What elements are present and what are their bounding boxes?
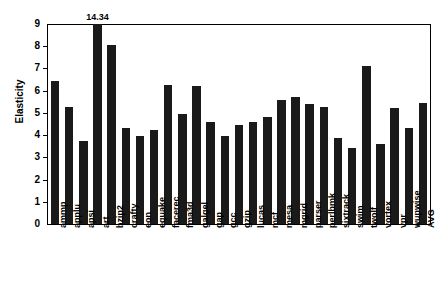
x-axis-label-swim: swim [356,205,365,228]
y-tick-label: 5 [24,108,40,118]
y-tick-label: 7 [24,63,40,73]
x-axis-label-perlbmk: perlbmk [328,193,337,228]
bar-twolf [362,66,370,224]
x-axis-label-bzip2: bzip2 [116,205,125,228]
x-axis-label-mcf: mcf [271,212,280,228]
x-axis-label-twolf: twolf [370,207,379,228]
x-axis-label-mesa: mesa [285,205,294,228]
y-tick-label: 0 [24,219,40,229]
x-axis-label-eon: eon [144,212,153,228]
elasticity-bar-chart: Elasticity 0123456789 14.34 ammpappluaps… [0,0,438,295]
y-tick-mark [43,202,47,203]
y-tick-mark [43,157,47,158]
x-axis-labels: ammpappluapsiartbzip2craftyeonequakeface… [48,226,430,295]
x-axis-label-wupwise: wupwise [413,190,422,228]
y-axis-title: Elasticity [14,47,25,157]
bars-container [48,24,430,224]
y-tick-mark [43,135,47,136]
y-tick-label: 2 [24,175,40,185]
peak-value-label: 14.34 [83,12,113,22]
x-axis-label-galgel: galgel [201,202,210,228]
x-axis-label-lucas: lucas [257,205,266,228]
x-axis-label-avg: AVG [427,209,436,228]
x-axis-label-applu: applu [73,204,82,228]
x-axis-label-fma3d: fma3d [186,201,195,228]
x-axis-label-vpr: vpr [399,214,408,228]
y-tick-label: 4 [24,130,40,140]
y-tick-label: 6 [24,86,40,96]
bar-bzip2 [107,45,115,224]
x-axis-label-gzip: gzip [243,210,252,228]
y-tick-label: 8 [24,41,40,51]
x-axis-label-equake: equake [158,197,167,228]
x-axis-label-parser: parser [314,200,323,228]
y-tick-mark [43,46,47,47]
y-tick-mark [43,91,47,92]
x-axis-label-facerec: facerec [172,196,181,228]
y-tick-mark [43,68,47,69]
bar-art [93,24,101,224]
y-tick-label: 3 [24,152,40,162]
y-tick-label: 1 [24,197,40,207]
x-axis-label-sixtrack: sixtrack [342,194,351,228]
x-axis-label-ammp: ammp [59,201,68,228]
y-tick-mark [43,180,47,181]
x-axis-label-crafty: crafty [130,203,139,228]
x-axis-label-mgrid: mgrid [300,203,309,228]
x-axis-label-gap: gap [215,212,224,228]
y-tick-label: 9 [24,19,40,29]
x-axis-label-apsi: apsi [87,210,96,228]
bar-gcc [221,136,229,224]
x-axis-label-gcc: gcc [229,212,238,228]
x-axis-label-vortex: vortex [384,201,393,228]
x-axis-label-art: art [102,216,111,228]
y-tick-mark [43,113,47,114]
